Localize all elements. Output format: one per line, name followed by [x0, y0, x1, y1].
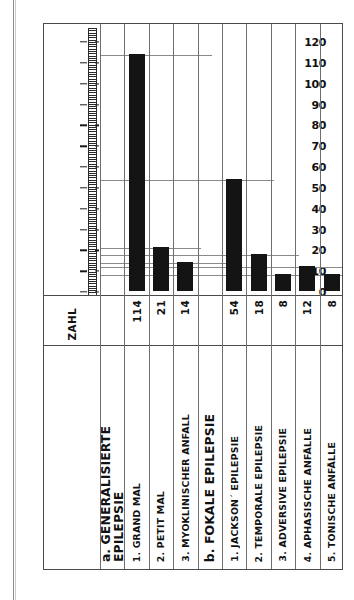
bar	[251, 254, 267, 292]
value-text: 21	[155, 300, 167, 315]
category-label: 2. TEMPORALE EPILEPSIE	[253, 425, 264, 562]
column-divider	[124, 24, 125, 569]
category-label-cell: 2. TEMPORALE EPILEPSIE	[246, 346, 270, 569]
y-axis-tick-label: 120	[304, 37, 326, 48]
column-divider	[246, 24, 247, 569]
y-axis-tick-mark	[80, 104, 87, 105]
value-column-header-cell: ZAHL	[44, 296, 100, 345]
group-label-cell: b. FOKALE EPILEPSIE	[198, 346, 222, 569]
chart-table-frame: 0102030405060708090100110120 ZAHL1142114…	[43, 23, 343, 570]
value-cell: 8	[271, 296, 295, 345]
y-axis-tick-mark	[80, 291, 87, 292]
y-axis-minor-tick	[95, 125, 99, 126]
y-axis-minor-tick	[95, 104, 99, 105]
y-axis-minor-tick	[95, 166, 99, 167]
category-label: 1. GRAND MAL	[131, 483, 142, 562]
category-label-cell: 3. ADVERSIVE EPILEPSIE	[271, 346, 295, 569]
value-gridline	[100, 180, 274, 181]
column-divider	[149, 24, 150, 569]
group-label-line-2: EPILEPSIE	[112, 426, 125, 562]
y-axis-tick-mark	[80, 83, 87, 84]
plot-area: 0102030405060708090100110120	[44, 24, 342, 296]
bar	[177, 262, 193, 291]
column-divider	[198, 24, 199, 569]
category-label: 4. APHASISCHE ANFÄLLE	[302, 428, 313, 562]
category-label: 5. TONISCHE ANFÄLLE	[326, 442, 337, 562]
y-axis-tick-mark	[80, 62, 87, 63]
y-axis	[44, 24, 94, 295]
y-axis-tick-mark	[80, 208, 87, 209]
value-cell	[198, 296, 222, 345]
category-label-cell: 5. TONISCHE ANFÄLLE	[320, 346, 344, 569]
y-axis-tick-mark	[80, 250, 87, 251]
category-label-cell: 1. GRAND MAL	[124, 346, 148, 569]
column-divider	[271, 24, 272, 569]
axis-label-cell	[44, 346, 100, 569]
value-cell: 14	[173, 296, 197, 345]
page-left-rule-shadow	[15, 0, 16, 600]
value-gridline	[100, 55, 212, 56]
column-divider	[295, 24, 296, 569]
y-axis-minor-tick	[95, 291, 99, 292]
value-text: 8	[277, 300, 289, 308]
column-divider	[222, 24, 223, 569]
category-label: 3. ADVERSIVE EPILEPSIE	[277, 428, 288, 562]
y-axis-minor-tick	[95, 62, 99, 63]
value-text: 54	[228, 300, 240, 315]
category-label-cell: 1. JACKSON´ EPILEPSIE	[222, 346, 246, 569]
category-label-cell: 2. PETIT MAL	[149, 346, 173, 569]
y-axis-tick-label: 100	[304, 78, 326, 89]
value-text: 14	[179, 300, 191, 315]
group-label: b. FOKALE EPILEPSIE	[203, 414, 216, 562]
y-axis-minor-tick	[95, 250, 99, 251]
bar	[226, 179, 242, 292]
value-text: 114	[131, 300, 143, 323]
bar	[299, 266, 315, 291]
y-axis-minor-tick	[95, 229, 99, 230]
y-axis-minor-tick	[95, 146, 99, 147]
bar	[324, 274, 340, 291]
category-label: 2. PETIT MAL	[155, 491, 166, 562]
y-axis-tick-label: 110	[304, 57, 326, 68]
value-cell: 8	[320, 296, 344, 345]
category-label-cell: 3. MYOKLINISCHER ANFALL	[173, 346, 197, 569]
group-label: a. GENERALISIERTEEPILEPSIE	[99, 426, 125, 562]
value-cell: 18	[246, 296, 270, 345]
page-left-rule	[13, 0, 14, 600]
y-axis-minor-tick	[95, 187, 99, 188]
y-axis-tick-mark	[80, 166, 87, 167]
value-cell: 54	[222, 296, 246, 345]
value-cell	[100, 296, 124, 345]
bar	[153, 247, 169, 291]
y-axis-tick-mark	[80, 125, 87, 126]
y-axis-tick-mark	[80, 187, 87, 188]
value-gridline	[100, 248, 201, 249]
group-label-cell: a. GENERALISIERTEEPILEPSIE	[100, 346, 124, 569]
y-axis-tick-mark	[80, 270, 87, 271]
value-text: 12	[301, 300, 313, 315]
bar	[129, 54, 145, 292]
bar	[275, 274, 291, 291]
value-text: 18	[253, 300, 265, 315]
y-axis-tick-mark	[80, 145, 87, 146]
value-column-header: ZAHL	[66, 308, 78, 340]
column-divider	[320, 24, 321, 569]
value-text: 8	[326, 300, 338, 308]
y-axis-minor-tick	[95, 271, 99, 272]
axis-ruler-hatch	[88, 28, 97, 295]
y-axis-minor-tick	[95, 208, 99, 209]
category-label-cell: 4. APHASISCHE ANFÄLLE	[295, 346, 319, 569]
value-cell: 114	[124, 296, 148, 345]
column-divider	[100, 24, 101, 569]
y-axis-minor-tick	[95, 41, 99, 42]
category-label: 1. JACKSON´ EPILEPSIE	[229, 436, 240, 562]
value-row: ZAHL114211454188128	[44, 296, 342, 346]
value-cell: 21	[149, 296, 173, 345]
category-label: 3. MYOKLINISCHER ANFALL	[180, 414, 191, 562]
value-cell: 12	[295, 296, 319, 345]
y-axis-tick-mark	[80, 41, 87, 42]
y-axis-minor-tick	[95, 83, 99, 84]
category-label-row: a. GENERALISIERTEEPILEPSIE1. GRAND MAL2.…	[44, 346, 342, 569]
y-axis-tick-mark	[80, 229, 87, 230]
column-divider	[173, 24, 174, 569]
